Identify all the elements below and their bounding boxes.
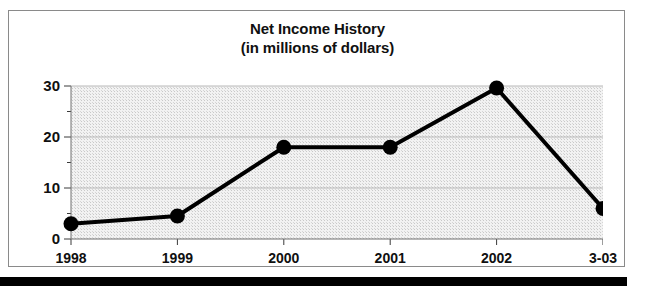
- y-tick-label: 10: [28, 179, 60, 196]
- x-tick-label: 2001: [355, 250, 425, 266]
- data-point: [64, 216, 79, 231]
- plot-area: [63, 76, 603, 251]
- chart-title-block: Net Income History (in millions of dolla…: [9, 19, 626, 57]
- x-tick-label: 3-03: [568, 250, 638, 266]
- x-axis-ticks: [71, 239, 603, 245]
- y-tick-label: 30: [28, 77, 60, 94]
- chart-subtitle: (in millions of dollars): [9, 38, 626, 57]
- y-tick-label: 0: [28, 230, 60, 247]
- x-tick-label: 1999: [142, 250, 212, 266]
- y-tick-label: 20: [28, 128, 60, 145]
- line-chart-svg: [63, 76, 603, 251]
- data-point: [383, 140, 398, 155]
- x-tick-label: 2000: [249, 250, 319, 266]
- x-tick-label: 1998: [36, 250, 106, 266]
- y-axis-ticks: [64, 86, 71, 239]
- data-point: [170, 209, 185, 224]
- chart-title: Net Income History: [9, 19, 626, 38]
- data-point: [276, 140, 291, 155]
- bottom-black-bar: [0, 277, 627, 286]
- x-tick-label: 2002: [462, 250, 532, 266]
- chart-figure: Net Income History (in millions of dolla…: [8, 10, 625, 267]
- data-point: [489, 81, 504, 96]
